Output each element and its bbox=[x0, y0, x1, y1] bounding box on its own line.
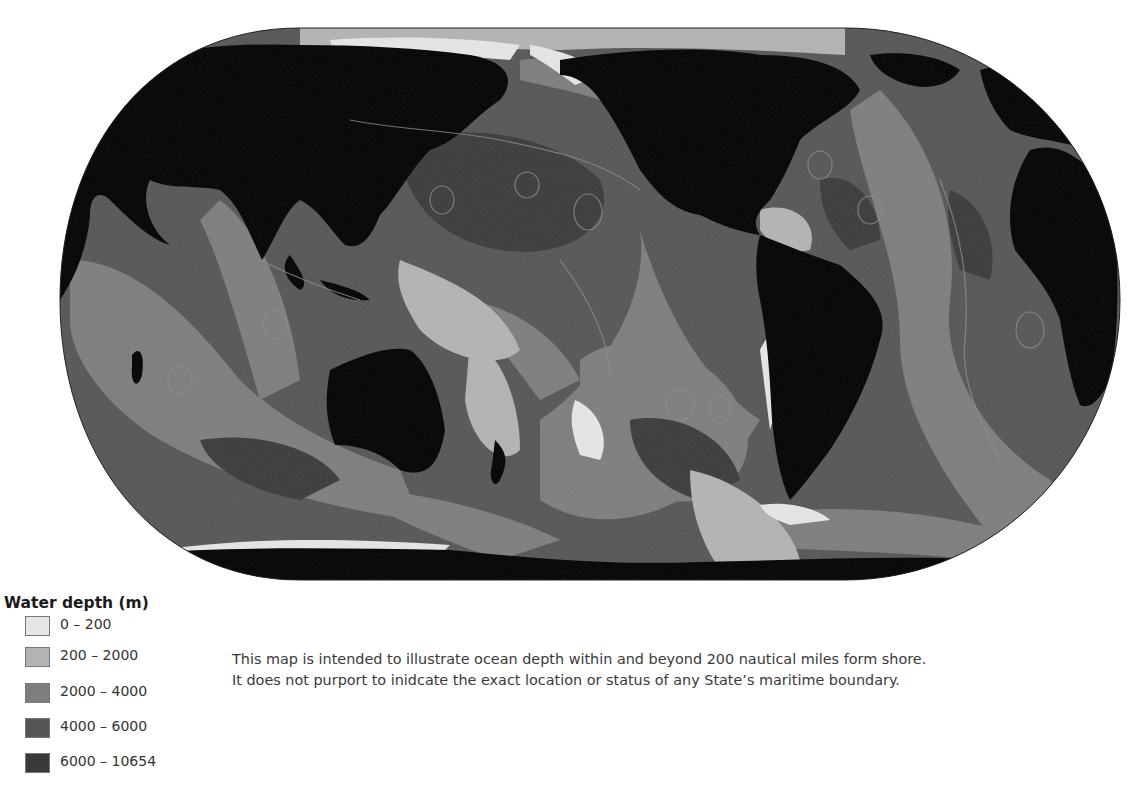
texture-overlay bbox=[0, 0, 1143, 590]
legend-swatch bbox=[25, 753, 50, 773]
caption-line-2: It does not purport to inidcate the exac… bbox=[232, 670, 926, 691]
legend-label: 200 – 2000 bbox=[60, 647, 138, 663]
caption-line-1: This map is intended to illustrate ocean… bbox=[232, 649, 926, 670]
bathymetry-world-map bbox=[0, 0, 1143, 590]
legend-item-0-200: 0 – 200 bbox=[25, 614, 215, 636]
legend-item-2000-4000: 2000 – 4000 bbox=[25, 681, 215, 703]
legend-item-6000-10654: 6000 – 10654 bbox=[25, 751, 215, 773]
legend-item-4000-6000: 4000 – 6000 bbox=[25, 716, 215, 738]
legend-title: Water depth (m) bbox=[4, 594, 149, 612]
legend-label: 6000 – 10654 bbox=[60, 753, 156, 769]
legend-label: 0 – 200 bbox=[60, 616, 112, 632]
legend-item-200-2000: 200 – 2000 bbox=[25, 645, 215, 667]
map-disclaimer-caption: This map is intended to illustrate ocean… bbox=[232, 649, 926, 691]
legend-swatch bbox=[25, 683, 50, 703]
map-body bbox=[0, 0, 1143, 590]
legend-label: 2000 – 4000 bbox=[60, 683, 147, 699]
legend-swatch bbox=[25, 616, 50, 636]
legend-swatch bbox=[25, 718, 50, 738]
legend-label: 4000 – 6000 bbox=[60, 718, 147, 734]
legend-swatch bbox=[25, 647, 50, 667]
